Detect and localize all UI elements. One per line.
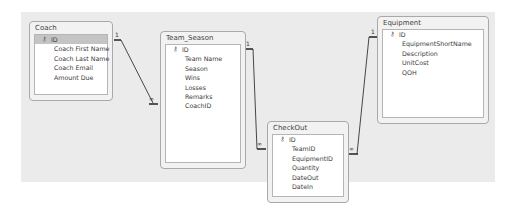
svg-text:1: 1 <box>115 31 119 38</box>
field-unit-cost[interactable]: UnitCost <box>383 58 483 67</box>
field-coach-first-name[interactable]: Coach First Name <box>35 44 107 53</box>
field-season[interactable]: Season <box>166 64 240 73</box>
field-id[interactable]: ⚷ ID <box>273 135 343 144</box>
field-amount-due[interactable]: Amount Due <box>35 73 107 82</box>
table-title: CheckOut <box>273 124 307 132</box>
field-id[interactable]: ⚷ ID <box>35 35 107 44</box>
field-coach-email[interactable]: Coach Email <box>35 63 107 72</box>
field-description[interactable]: Description <box>383 49 483 58</box>
table-title: Equipment <box>383 19 421 27</box>
field-losses[interactable]: Losses <box>166 83 240 92</box>
field-date-out[interactable]: DateOut <box>273 173 343 182</box>
field-id[interactable]: ⚷ ID <box>383 30 483 39</box>
svg-text:∞: ∞ <box>257 140 262 147</box>
svg-text:1: 1 <box>246 40 250 47</box>
primary-key-icon: ⚷ <box>173 45 178 54</box>
field-id[interactable]: ⚷ ID <box>166 45 240 54</box>
table-title: Coach <box>35 24 57 32</box>
field-list[interactable]: ⚷ ID Coach First Name Coach Last Name Co… <box>34 34 108 95</box>
primary-key-icon: ⚷ <box>42 35 47 44</box>
field-date-in[interactable]: DateIn <box>273 182 343 191</box>
field-qoh[interactable]: QOH <box>383 68 483 77</box>
field-coach-last-name[interactable]: Coach Last Name <box>35 54 107 63</box>
field-equipment-short-name[interactable]: EquipmentShortName <box>383 39 483 48</box>
table-equipment[interactable]: Equipment ⚷ ID EquipmentShortName Descri… <box>377 16 489 124</box>
primary-key-icon: ⚷ <box>280 135 285 144</box>
field-quantity[interactable]: Quantity <box>273 163 343 172</box>
field-list[interactable]: ⚷ ID EquipmentShortName Description Unit… <box>382 29 484 118</box>
svg-text:∞: ∞ <box>149 95 154 102</box>
field-list[interactable]: ⚷ ID Team Name Season Wins Losses Remark… <box>165 44 241 163</box>
primary-key-icon: ⚷ <box>390 30 395 39</box>
table-coach[interactable]: Coach ⚷ ID Coach First Name Coach Last N… <box>29 21 113 101</box>
relationship-team-season-checkout[interactable]: 1 ∞ <box>245 40 266 149</box>
relationship-coach-team-season[interactable]: 1 ∞ <box>114 31 158 104</box>
table-team-season[interactable]: Team_Season ⚷ ID Team Name Season Wins L… <box>160 31 246 169</box>
field-equipment-id[interactable]: EquipmentID <box>273 154 343 163</box>
table-checkout[interactable]: CheckOut ⚷ ID TeamID EquipmentID Quantit… <box>267 121 349 203</box>
field-team-name[interactable]: Team Name <box>166 54 240 63</box>
svg-text:∞: ∞ <box>349 145 354 152</box>
field-remarks[interactable]: Remarks <box>166 92 240 101</box>
table-title: Team_Season <box>166 34 213 42</box>
field-wins[interactable]: Wins <box>166 73 240 82</box>
svg-text:1: 1 <box>371 28 375 35</box>
field-list[interactable]: ⚷ ID TeamID EquipmentID Quantity DateOut… <box>272 134 344 197</box>
relationship-equipment-checkout[interactable]: 1 ∞ <box>349 28 377 154</box>
field-team-id[interactable]: TeamID <box>273 144 343 153</box>
field-coach-id[interactable]: CoachID <box>166 101 240 110</box>
